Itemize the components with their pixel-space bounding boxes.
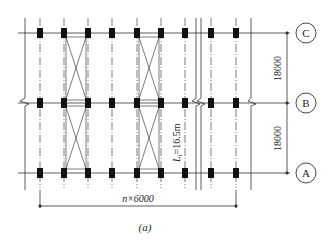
vertical-dimension xyxy=(286,32,288,174)
dimension-cb: 18000 xyxy=(272,56,283,81)
dimension-ba: 18000 xyxy=(272,126,283,151)
bay-total-dimension: n×6000 xyxy=(122,193,154,204)
axis-bubble-a: A xyxy=(296,163,316,183)
truss-length-value: =16.5m xyxy=(171,123,182,154)
axis-label-b: B xyxy=(302,97,309,109)
truss-length-label: Lt=16.5m xyxy=(171,123,184,163)
grid-lines xyxy=(18,33,290,173)
figure-caption: (a) xyxy=(139,221,152,234)
axis-label-a: A xyxy=(302,167,310,179)
structural-plan: 18000 18000 C B A Lt=16.5m n×6000 (a) xyxy=(0,0,329,242)
axis-bubble-b: B xyxy=(296,93,316,113)
axis-label-c: C xyxy=(302,27,309,39)
axis-bubble-c: C xyxy=(296,23,316,43)
